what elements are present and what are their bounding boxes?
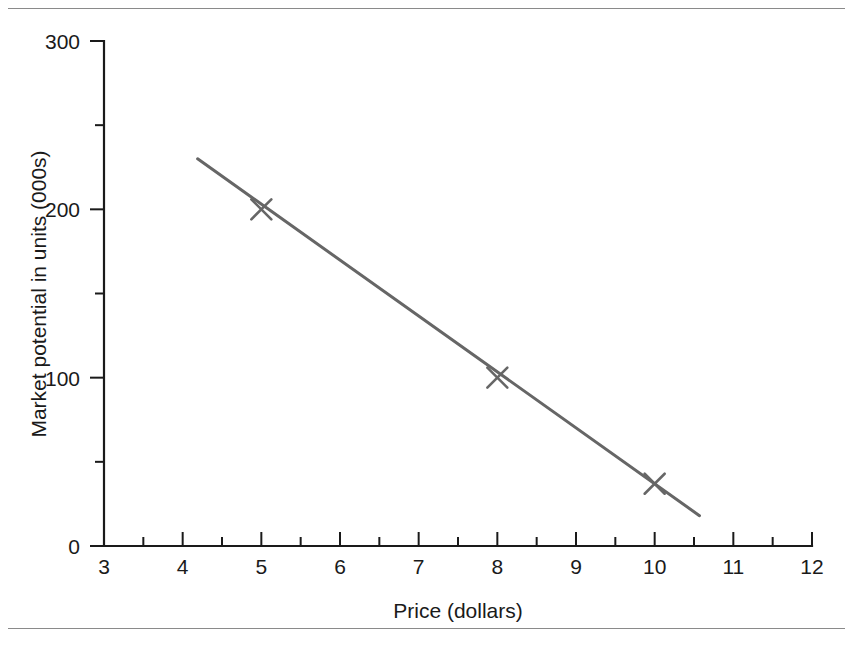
y-tick-label: 0 xyxy=(68,535,80,558)
x-tick-label: 4 xyxy=(177,555,189,578)
y-tick-label: 200 xyxy=(45,198,80,221)
trend-line xyxy=(198,159,700,516)
chart-canvas: 0100200300 3456789101112 Price (dollars)… xyxy=(0,0,853,647)
figure-container: 0100200300 3456789101112 Price (dollars)… xyxy=(0,0,853,647)
x-tick-label: 6 xyxy=(334,555,346,578)
x-tick-label: 10 xyxy=(643,555,666,578)
x-tick-label: 11 xyxy=(722,555,744,578)
x-tick-label: 9 xyxy=(570,555,582,578)
x-tick-label: 3 xyxy=(98,555,110,578)
data-series-group xyxy=(198,159,700,516)
y-axis-title: Market potential in units (000s) xyxy=(27,150,50,437)
x-tick-label: 12 xyxy=(800,555,823,578)
x-tick-label: 8 xyxy=(491,555,503,578)
x-axis-title: Price (dollars) xyxy=(393,599,523,622)
data-point-marker xyxy=(645,474,665,494)
y-tick-label: 300 xyxy=(45,30,80,53)
x-axis: 3456789101112 xyxy=(98,532,824,578)
y-axis: 0100200300 xyxy=(45,30,104,558)
x-tick-label: 7 xyxy=(413,555,425,578)
y-tick-label: 100 xyxy=(45,367,80,390)
x-tick-label: 5 xyxy=(255,555,267,578)
